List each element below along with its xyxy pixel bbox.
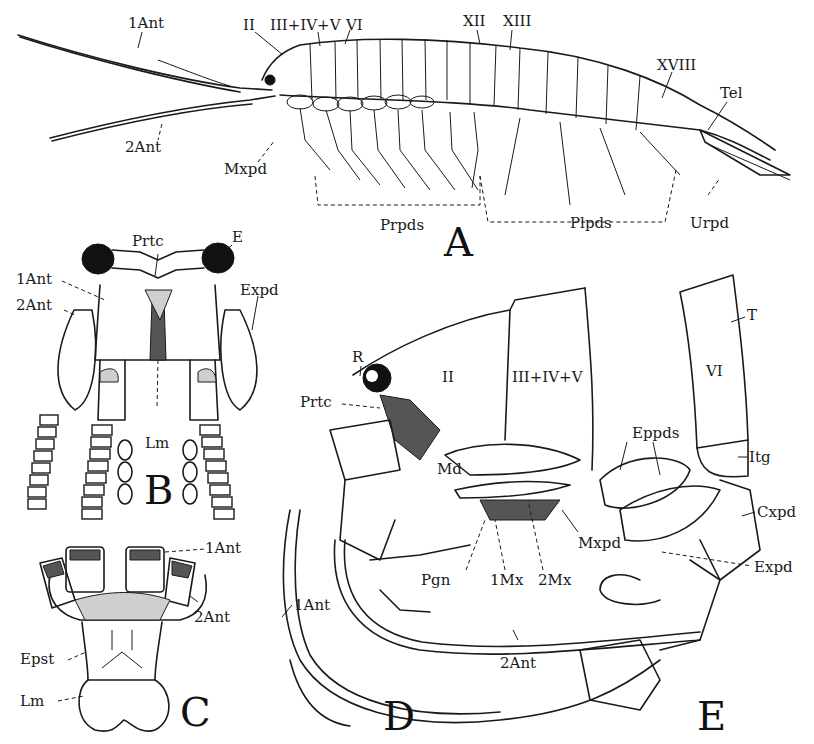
label-d-segment-ii: II xyxy=(442,370,454,385)
anatomy-figure: 1Ant 2Ant II III+IV+V VI XII XIII XVIII … xyxy=(0,0,814,744)
label-d-segment-iii-v: III+IV+V xyxy=(512,370,583,385)
label-a-maxilliped: Mxpd xyxy=(224,162,267,177)
panel-label-c: C xyxy=(180,692,211,732)
label-d-maxilla-1: 1Mx xyxy=(490,573,523,588)
label-c-2ant: 2Ant xyxy=(194,610,230,625)
label-b-labrum: Lm xyxy=(145,436,169,451)
label-b-2ant: 2Ant xyxy=(16,298,52,313)
label-c-labrum: Lm xyxy=(20,694,44,709)
label-a-segment-ii: II xyxy=(243,18,255,33)
panel-b-drawing xyxy=(28,243,258,519)
label-b-protocerebrum: Prtc xyxy=(132,234,164,249)
label-a-pleopods: Plpds xyxy=(570,216,612,231)
label-e-segment-vi: VI xyxy=(706,364,723,379)
label-a-1ant: 1Ant xyxy=(128,16,164,31)
label-a-telson: Tel xyxy=(720,86,743,101)
label-d-maxilliped: Mxpd xyxy=(578,536,621,551)
label-b-1ant: 1Ant xyxy=(16,272,52,287)
label-a-pereiopods: Prpds xyxy=(380,218,424,233)
label-c-epistome: Epst xyxy=(20,652,54,667)
label-a-uropod: Urpd xyxy=(690,216,729,231)
figure-drawing xyxy=(0,0,814,744)
label-a-segment-xiii: XIII xyxy=(503,14,531,29)
label-a-segment-vi: VI xyxy=(346,18,363,33)
label-e-tergum: T xyxy=(747,308,757,323)
label-d-rostrum: R xyxy=(352,350,363,365)
label-b-eye: E xyxy=(232,230,243,245)
label-d-1ant: 1Ant xyxy=(294,598,330,613)
label-a-segment-iii-v: III+IV+V xyxy=(270,18,341,33)
panel-label-e: E xyxy=(697,696,726,736)
panel-label-b: B xyxy=(144,470,173,510)
label-a-segment-xii: XII xyxy=(463,14,486,29)
panel-label-a: A xyxy=(444,222,473,262)
label-e-exopodite: Expd xyxy=(754,560,793,575)
label-d-maxilla-2: 2Mx xyxy=(538,573,571,588)
label-d-paragnath: Pgn xyxy=(421,573,450,588)
label-c-1ant: 1Ant xyxy=(205,541,241,556)
panel-e-drawing xyxy=(580,275,760,710)
label-e-coxopodite: Cxpd xyxy=(757,505,796,520)
label-e-epipodites: Eppds xyxy=(632,426,679,441)
label-e-intertergal: Itg xyxy=(749,450,771,465)
label-d-mandible: Md xyxy=(437,462,462,477)
label-d-protocerebrum: Prtc xyxy=(300,395,332,410)
label-d-2ant: 2Ant xyxy=(500,656,536,671)
label-b-exopodite: Expd xyxy=(240,283,279,298)
label-a-segment-xviii: XVIII xyxy=(657,58,696,73)
panel-label-d: D xyxy=(383,696,415,736)
label-a-2ant: 2Ant xyxy=(125,140,161,155)
